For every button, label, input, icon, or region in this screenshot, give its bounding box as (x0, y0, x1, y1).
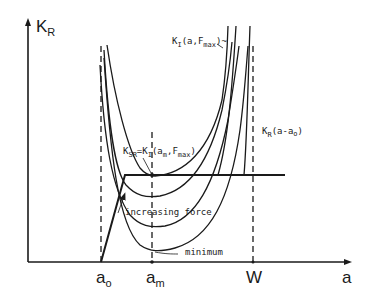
minimum-leader-line (155, 252, 178, 254)
y-axis-label: KR (36, 17, 55, 38)
ksr-leader-line (143, 158, 151, 173)
ksr-annotation: KSR=KI(am,Fmax) (123, 146, 196, 159)
r-curve-diagram: KR a ao am W KI(a,Fmax)~ KSR=KI(am,Fmax)… (0, 0, 374, 299)
am-tick (150, 260, 154, 264)
tangent-point (150, 173, 154, 177)
a0-label: ao (96, 268, 112, 289)
ki-curve-steep-2 (244, 26, 250, 175)
w-label: W (246, 268, 262, 287)
ki-curve-3 (100, 46, 239, 227)
increasing-force-label: increasing force (125, 207, 212, 217)
minimum-label: minimum (185, 247, 223, 257)
ki-fmax-annotation: KI(a,Fmax)~ (172, 36, 227, 49)
w-tick (252, 261, 255, 264)
x-axis-label: a (342, 268, 352, 287)
kr-annotation: KR(a-ao) (262, 126, 303, 139)
am-label: am (146, 268, 165, 289)
